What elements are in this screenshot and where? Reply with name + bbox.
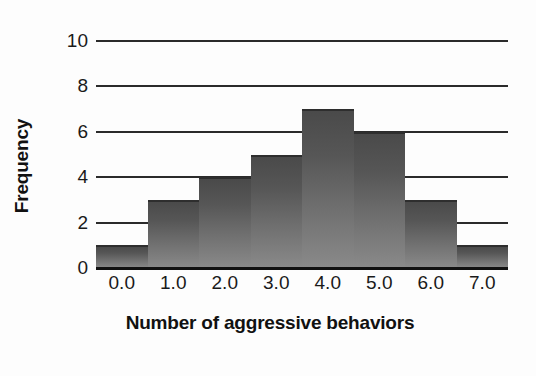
x-axis-line [96, 267, 508, 270]
y-axis-tick-label: 10 [44, 30, 88, 52]
bar [405, 200, 457, 268]
histogram-figure: Frequency 0246810 0.01.02.03.04.05.06.07… [0, 0, 536, 376]
y-axis-tick-label: 0 [44, 257, 88, 279]
bar [457, 245, 509, 268]
plot-area [96, 41, 508, 268]
bar [148, 200, 200, 268]
y-axis-tick-label: 2 [44, 212, 88, 234]
bar [302, 109, 354, 268]
y-axis-title: Frequency [8, 96, 36, 236]
y-axis-tick-label: 4 [44, 166, 88, 188]
bar-series [96, 41, 508, 268]
bar [251, 155, 303, 269]
x-axis-title: Number of aggressive behaviors [60, 312, 480, 334]
bar [96, 245, 148, 268]
x-axis-tick-labels: 0.01.02.03.04.05.06.07.0 [96, 272, 508, 298]
bar [199, 177, 251, 268]
y-axis-tick-label: 8 [44, 75, 88, 97]
x-axis-tick-label: 7.0 [452, 272, 512, 294]
bar [354, 132, 406, 268]
y-axis-tick-label: 6 [44, 121, 88, 143]
